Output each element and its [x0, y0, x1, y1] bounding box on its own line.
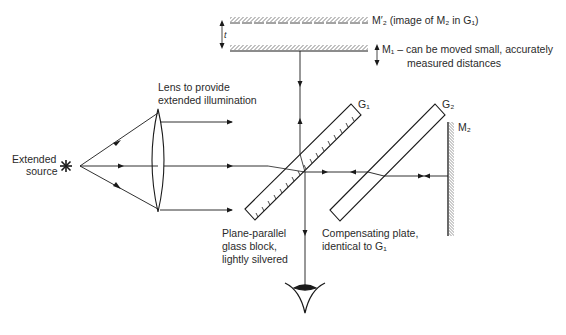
source-rays	[80, 113, 158, 209]
label-g2-desc-line1: Compensating plate,	[322, 227, 418, 240]
label-m2-prime: M′₂ (image of M₂ in G₁)	[372, 14, 478, 27]
mirror-m2-prime	[230, 17, 368, 23]
label-m2: M₂	[458, 121, 471, 134]
label-g1: G₁	[358, 98, 370, 111]
label-m1-line1: M₁ – can be moved small, accurately	[382, 43, 553, 56]
label-t: t	[224, 29, 227, 42]
m1-movement-arrow	[375, 44, 380, 66]
source-ray-arrows	[113, 140, 124, 189]
plate-g1	[245, 104, 361, 220]
mirror-m1	[230, 45, 368, 51]
label-source-line2: source	[26, 165, 58, 178]
label-g1-desc-line2: glass block,	[222, 240, 277, 253]
vertical-beam-arrows	[298, 81, 308, 236]
label-g2-desc-line2: identical to G₁	[322, 240, 387, 253]
source-star-icon	[60, 160, 72, 172]
label-g1-desc-line1: Plane-parallel	[222, 227, 286, 240]
observer-eye-icon	[285, 283, 325, 313]
collimated-ray-arrows	[227, 120, 233, 213]
mirror-m2	[448, 122, 454, 236]
label-lens-line2: extended illumination	[158, 94, 257, 107]
label-g2: G₂	[442, 98, 454, 111]
collimated-rays	[160, 122, 268, 210]
g1-internal-rays	[268, 154, 305, 172]
label-g1-desc-line3: lightly silvered	[222, 253, 288, 266]
plate-g2	[330, 104, 445, 221]
lens	[152, 109, 164, 212]
label-m1-line2: measured distances	[407, 57, 501, 70]
label-lens-line1: Lens to provide	[158, 81, 230, 94]
